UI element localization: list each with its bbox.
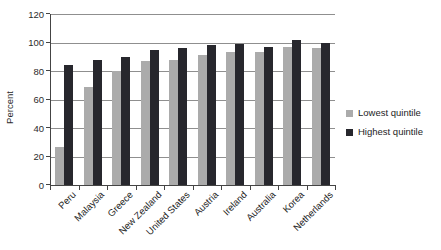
- legend-swatch-lowest-icon: [346, 110, 353, 117]
- y-tick-label-40: 40: [18, 124, 44, 133]
- bar-lowest-quintile-greece: [112, 71, 121, 185]
- x-tick-mark-2: [107, 186, 108, 190]
- y-tick-mark-60: [46, 99, 50, 100]
- y-tick-label-20: 20: [18, 152, 44, 161]
- y-tick-label-100: 100: [18, 38, 44, 47]
- bar-lowest-quintile-ireland: [226, 52, 235, 185]
- bar-lowest-quintile-united-states: [169, 60, 178, 185]
- bar-highest-quintile-ireland: [235, 44, 244, 185]
- y-tick-label-0: 0: [18, 181, 44, 190]
- y-tick-mark-100: [46, 42, 50, 43]
- y-tick-label-80: 80: [18, 67, 44, 76]
- legend-label-highest: Highest quintile: [358, 127, 423, 137]
- x-tick-mark-8: [278, 186, 279, 190]
- bar-highest-quintile-austria: [207, 45, 216, 185]
- bar-highest-quintile-netherlands: [321, 43, 330, 186]
- x-tick-label-korea: Korea: [280, 189, 306, 215]
- bar-lowest-quintile-peru: [55, 147, 64, 185]
- legend-swatch-highest-icon: [346, 129, 353, 136]
- bar-highest-quintile-korea: [292, 40, 301, 185]
- legend-item-highest-quintile: Highest quintile: [346, 127, 423, 137]
- legend-item-lowest-quintile: Lowest quintile: [346, 108, 423, 118]
- bar-lowest-quintile-korea: [283, 47, 292, 185]
- x-tick-mark-5: [193, 186, 194, 190]
- x-tick-label-malaysia: Malaysia: [72, 189, 106, 223]
- x-tick-mark-3: [136, 186, 137, 190]
- legend: Lowest quintile Highest quintile: [346, 108, 423, 146]
- x-tick-label-peru: Peru: [56, 189, 78, 211]
- x-tick-mark-9: [307, 186, 308, 190]
- y-tick-mark-0: [46, 184, 50, 185]
- bar-highest-quintile-australia: [264, 47, 273, 185]
- bar-highest-quintile-peru: [64, 65, 73, 185]
- y-axis-line: [50, 14, 51, 185]
- x-tick-label-australia: Australia: [244, 189, 278, 223]
- x-tick-mark-6: [221, 186, 222, 190]
- bar-lowest-quintile-australia: [255, 52, 264, 185]
- bar-chart-figure: Percent 020406080100120PeruMalaysiaGreec…: [0, 0, 441, 250]
- x-tick-label-austria: Austria: [192, 189, 221, 218]
- y-tick-mark-120: [46, 13, 50, 14]
- gridline-120: [50, 14, 335, 15]
- legend-label-lowest: Lowest quintile: [358, 108, 421, 118]
- y-tick-label-120: 120: [18, 10, 44, 19]
- x-tick-mark-0: [50, 186, 51, 190]
- bar-highest-quintile-new-zealand: [150, 50, 159, 185]
- y-axis-title-wrap: Percent: [2, 60, 16, 150]
- bar-highest-quintile-united-states: [178, 48, 187, 185]
- y-tick-label-60: 60: [18, 95, 44, 104]
- x-tick-mark-10: [335, 186, 336, 190]
- y-tick-mark-20: [46, 156, 50, 157]
- y-axis-title: Percent: [4, 73, 15, 143]
- x-tick-mark-4: [164, 186, 165, 190]
- bar-lowest-quintile-netherlands: [312, 48, 321, 185]
- bar-highest-quintile-malaysia: [93, 60, 102, 185]
- bar-lowest-quintile-malaysia: [84, 87, 93, 185]
- y-tick-mark-80: [46, 70, 50, 71]
- bar-lowest-quintile-new-zealand: [141, 61, 150, 185]
- plot-area: [50, 14, 335, 185]
- bar-highest-quintile-greece: [121, 57, 130, 185]
- x-tick-mark-1: [79, 186, 80, 190]
- bar-lowest-quintile-austria: [198, 55, 207, 185]
- y-tick-mark-40: [46, 127, 50, 128]
- x-tick-mark-7: [250, 186, 251, 190]
